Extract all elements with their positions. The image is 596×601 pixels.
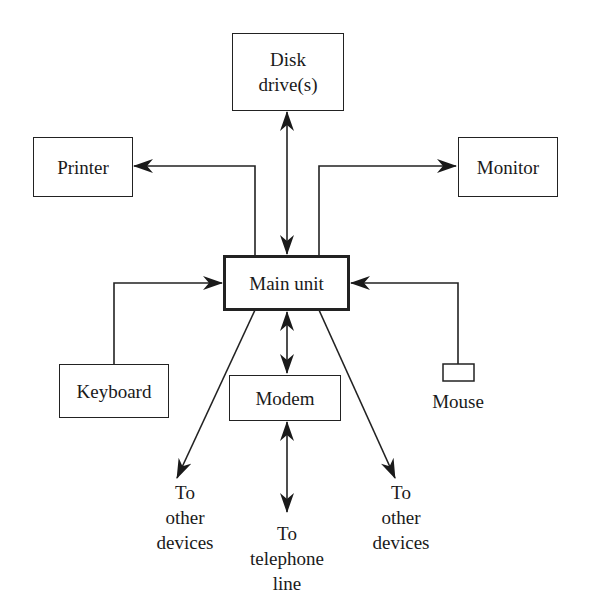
main-unit-node: Main unit [223,255,350,311]
printer-label: Printer [57,155,109,180]
disk-label-line1: Disk [270,47,306,72]
edge-main-monitor [319,166,456,256]
monitor-label: Monitor [477,155,539,180]
terminal-right-line3: devices [356,530,446,555]
modem-node: Modem [229,375,341,421]
terminal-left-line2: other [140,505,230,530]
terminal-tel-line3: line [237,571,337,596]
terminal-telephone-line: To telephone line [237,521,337,596]
disk-label-line2: drive(s) [258,72,317,97]
monitor-node: Monitor [458,137,558,197]
main-unit-label: Main unit [249,271,323,296]
terminal-tel-line2: telephone [237,546,337,571]
terminal-left-line1: To [140,480,230,505]
terminal-other-devices-left: To other devices [140,480,230,555]
edge-keyboard-main [114,283,222,364]
keyboard-node: Keyboard [59,364,169,418]
edge-main-printer [134,166,255,256]
mouse-label: Mouse [418,389,498,414]
terminal-right-line1: To [356,480,446,505]
terminal-other-devices-right: To other devices [356,480,446,555]
mouse-shape [443,364,474,381]
disk-drive-node: Disk drive(s) [232,33,344,111]
terminal-right-line2: other [356,505,446,530]
printer-node: Printer [33,137,133,197]
edge-mouse-main [351,283,458,364]
modem-label: Modem [255,386,314,411]
terminal-tel-line1: To [237,521,337,546]
keyboard-label: Keyboard [77,379,152,404]
terminal-left-line3: devices [140,530,230,555]
